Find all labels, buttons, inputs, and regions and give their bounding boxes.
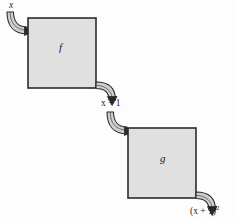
box-g-label: g: [160, 153, 166, 164]
output-label-x-plus-1-squared: (x + 1)2: [190, 205, 219, 217]
output-exponent: 2: [216, 204, 219, 211]
intermediate-label-x-plus-1: x + 1: [101, 99, 121, 109]
box-f-label: f: [59, 42, 62, 53]
function-box-f: [28, 18, 96, 88]
output-base: (x + 1): [190, 206, 216, 216]
function-composition-diagram: x f x + 1 g (x + 1)2: [0, 0, 238, 222]
diagram-canvas: [0, 0, 238, 222]
input-label-x: x: [9, 1, 13, 11]
